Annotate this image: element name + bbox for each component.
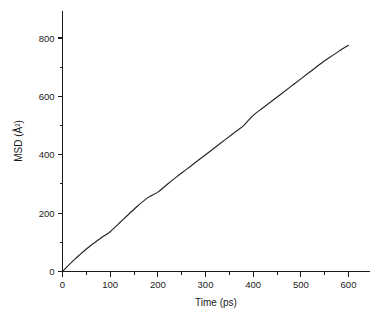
y-tick-label: 0 (49, 266, 54, 277)
x-tick-label: 400 (245, 279, 261, 290)
y-tick-label: 400 (39, 149, 55, 160)
x-tick-label: 500 (293, 279, 309, 290)
y-tick-label: 200 (39, 208, 55, 219)
y-axis-ticks (58, 38, 63, 272)
axis-spines (62, 11, 370, 272)
x-tick-label: 300 (198, 279, 214, 290)
y-axis-title: MSD (Å²) (12, 120, 24, 162)
x-tick-label: 100 (102, 279, 118, 290)
chart-figure: 0200400600800 0100200300400500600 Time (… (0, 0, 386, 322)
data-series-msd (63, 45, 349, 271)
x-tick-label: 600 (341, 279, 357, 290)
y-axis-tick-labels: 0200400600800 (39, 33, 55, 278)
x-axis-tick-labels: 0100200300400500600 (60, 279, 357, 290)
x-tick-label: 0 (60, 279, 65, 290)
x-axis-ticks (63, 272, 349, 277)
x-tick-label: 200 (150, 279, 166, 290)
y-tick-label: 600 (39, 91, 55, 102)
y-tick-label: 800 (39, 33, 55, 44)
msd-vs-time-chart: 0200400600800 0100200300400500600 Time (… (0, 0, 386, 322)
x-axis-title: Time (ps) (195, 297, 237, 308)
